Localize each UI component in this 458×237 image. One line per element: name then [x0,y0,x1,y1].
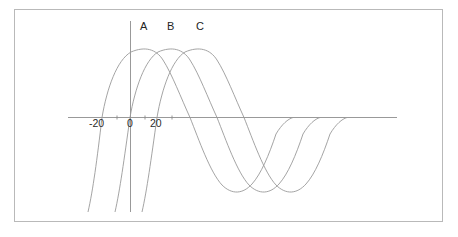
figure-root: -20 0 20 A B C [0,0,458,237]
x-tick-label-minus-20: -20 [89,118,104,129]
curve-c-path [142,49,347,212]
curve-a-path [88,49,293,212]
x-tick-label-20: 20 [150,118,162,129]
curve-label-a: A [140,21,147,32]
curve-label-b: B [167,21,174,32]
plot-canvas [0,0,458,237]
x-tick-label-zero: 0 [127,118,133,129]
curve-label-c: C [196,21,204,32]
curve-b-path [115,49,320,212]
